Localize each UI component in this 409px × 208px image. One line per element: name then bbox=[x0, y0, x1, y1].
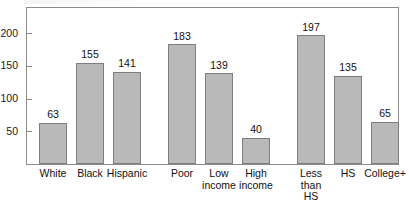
bar-value-label: 197 bbox=[283, 22, 339, 33]
y-tick-label: 150 bbox=[0, 60, 18, 71]
bar-value-label: 40 bbox=[228, 124, 284, 135]
bar[interactable] bbox=[76, 63, 104, 164]
bar[interactable] bbox=[371, 122, 399, 164]
bar[interactable] bbox=[113, 72, 141, 164]
bar[interactable] bbox=[334, 76, 362, 164]
bar-slot: 135 bbox=[334, 8, 362, 164]
bar-value-label: 183 bbox=[154, 31, 210, 42]
bar-value-label: 139 bbox=[191, 60, 247, 71]
bar-slot: 155 bbox=[76, 8, 104, 164]
y-tick-label: 200 bbox=[0, 28, 18, 39]
x-axis-tick-label: High income bbox=[229, 168, 283, 191]
y-axis: 20015010050 bbox=[0, 0, 26, 208]
bar-value-label: 135 bbox=[320, 62, 376, 73]
bar-value-label: 63 bbox=[25, 109, 81, 120]
bar[interactable] bbox=[297, 35, 325, 164]
x-axis-labels: WhiteBlackHispanicPoorLow incomeHigh inc… bbox=[27, 168, 398, 208]
bar-slot: 139 bbox=[205, 8, 233, 164]
y-tick-label: 100 bbox=[0, 93, 18, 104]
bar[interactable] bbox=[242, 138, 270, 164]
y-tick-label: 50 bbox=[6, 126, 18, 137]
x-axis-tick-label: Hispanic bbox=[100, 168, 154, 180]
bars-container: 631551411831394019713565 bbox=[27, 8, 398, 164]
bar[interactable] bbox=[205, 73, 233, 164]
bar-chart: 20015010050 631551411831394019713565 Whi… bbox=[0, 0, 409, 208]
bar-slot: 40 bbox=[242, 8, 270, 164]
bar-value-label: 65 bbox=[357, 108, 409, 119]
bar-slot: 63 bbox=[39, 8, 67, 164]
bar-slot: 197 bbox=[297, 8, 325, 164]
bar-slot: 141 bbox=[113, 8, 141, 164]
x-axis-tick-label: College+ bbox=[358, 168, 409, 180]
top-edge-artifact bbox=[24, 0, 134, 4]
bar[interactable] bbox=[39, 123, 67, 164]
bar-value-label: 141 bbox=[99, 58, 155, 69]
bar-slot: 183 bbox=[168, 8, 196, 164]
bar-slot: 65 bbox=[371, 8, 399, 164]
